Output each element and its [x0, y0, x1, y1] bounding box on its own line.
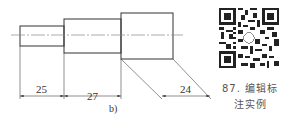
- large-cylinder: [121, 13, 173, 59]
- dimension-text-25: 25: [36, 83, 48, 95]
- small-cylinder: [20, 26, 64, 46]
- caption-line-1: 87. 编辑标: [210, 80, 290, 95]
- figure-label: b): [109, 103, 117, 115]
- dimension-text-27: 27: [87, 90, 99, 102]
- oblique-extension-line: [121, 59, 162, 99]
- caption-line-2: 注实例: [210, 96, 290, 111]
- oblique-extension-line: [173, 59, 211, 99]
- middle-cylinder: [64, 19, 121, 53]
- qr-code-icon: [219, 5, 279, 71]
- dimension-text-24: 24: [180, 83, 192, 95]
- shaft-dimension-drawing: 25 27 24 b): [0, 0, 215, 120]
